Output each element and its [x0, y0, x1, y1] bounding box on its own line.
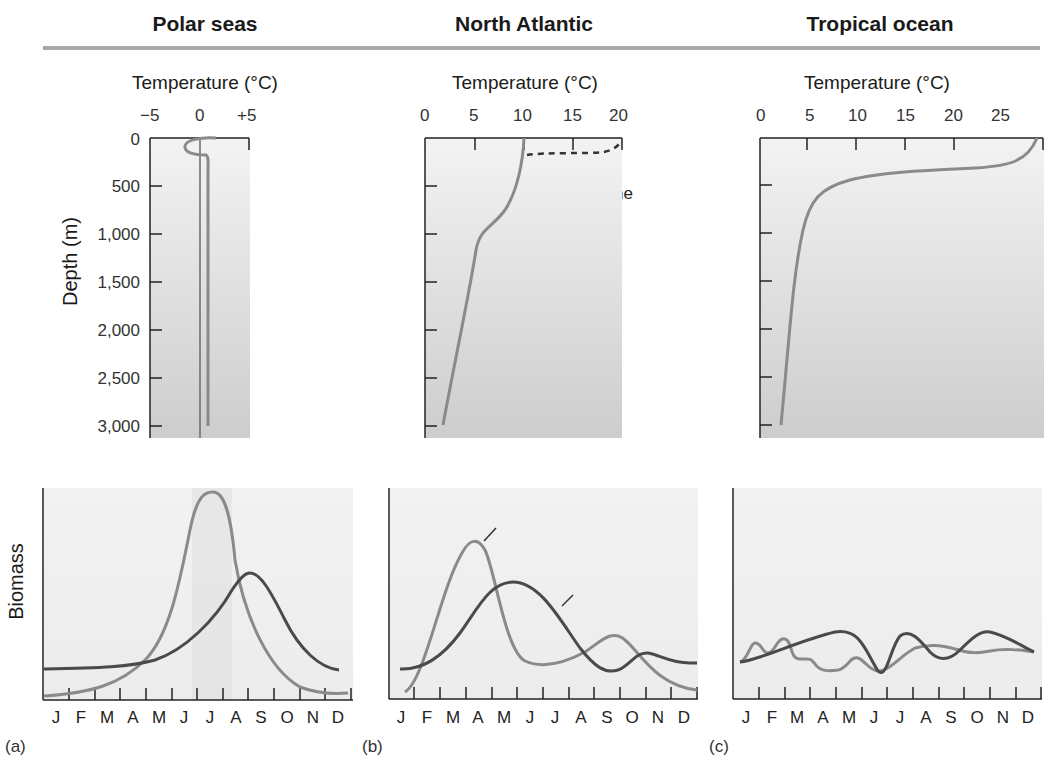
atlantic-biomass-chart [389, 488, 698, 699]
atlantic-month-oct: O [622, 708, 642, 728]
panel-id-c: (c) [709, 737, 729, 757]
tropical-biomass-chart [733, 488, 1042, 699]
tropical-month-feb: F [762, 708, 782, 728]
tropical-month-jan: J [736, 708, 756, 728]
tropical-month-sep: S [941, 708, 961, 728]
tropical-month-may: M [839, 708, 859, 728]
polar-month-apr: A [123, 708, 143, 728]
tropical-month-aug: A [916, 708, 936, 728]
polar-biomass-chart [43, 488, 353, 700]
atlantic-depth-chart [425, 138, 622, 438]
atlantic-month-mar: M [443, 708, 463, 728]
polar-month-jan: J [46, 708, 66, 728]
tropical-month-oct: O [967, 708, 987, 728]
atlantic-month-apr: A [468, 708, 488, 728]
polar-month-aug: A [226, 708, 246, 728]
atlantic-month-feb: F [417, 708, 437, 728]
atlantic-month-dec: D [674, 708, 694, 728]
polar-month-feb: F [71, 708, 91, 728]
tropical-month-apr: A [813, 708, 833, 728]
panel-id-a: (a) [5, 737, 26, 757]
polar-month-nov: N [303, 708, 323, 728]
tropical-depth-chart [760, 138, 1044, 438]
atlantic-month-aug: A [571, 708, 591, 728]
panel-id-b: (b) [362, 737, 383, 757]
atlantic-month-may: M [494, 708, 514, 728]
polar-month-may: M [149, 708, 169, 728]
polar-depth-chart [150, 138, 250, 438]
tropical-month-jun: J [864, 708, 884, 728]
atlantic-month-jun: J [520, 708, 540, 728]
atlantic-month-nov: N [648, 708, 668, 728]
atlantic-month-sep: S [597, 708, 617, 728]
tropical-month-jul: J [890, 708, 910, 728]
atlantic-month-jul: J [545, 708, 565, 728]
chart-graphics [0, 0, 1061, 767]
polar-month-sep: S [251, 708, 271, 728]
tropical-month-dec: D [1018, 708, 1038, 728]
tropical-month-mar: M [787, 708, 807, 728]
tropical-month-nov: N [993, 708, 1013, 728]
polar-month-dec: D [328, 708, 348, 728]
atlantic-month-jan: J [391, 708, 411, 728]
polar-month-jun: J [174, 708, 194, 728]
polar-month-oct: O [277, 708, 297, 728]
polar-month-jul: J [200, 708, 220, 728]
polar-month-mar: M [97, 708, 117, 728]
